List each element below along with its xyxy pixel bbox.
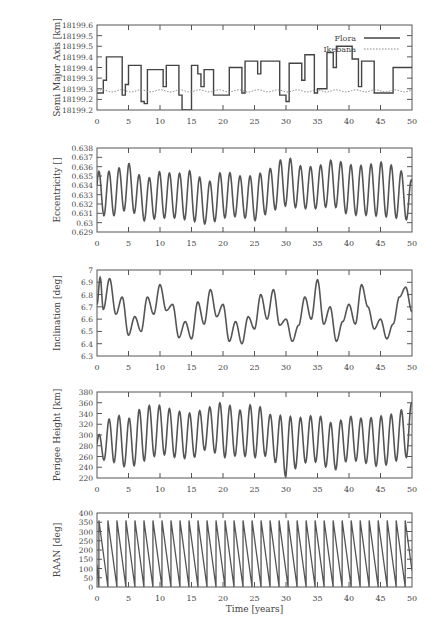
x-tick-label: 40 — [344, 594, 354, 603]
y-axis-label: RAAN [deg] — [52, 523, 62, 577]
x-tick-label: 5 — [126, 239, 131, 248]
x-tick-label: 35 — [312, 485, 322, 494]
x-tick-label: 40 — [344, 239, 354, 248]
x-tick-label: 20 — [218, 594, 228, 603]
perigee-height-line — [97, 403, 412, 476]
x-tick-label: 10 — [155, 594, 165, 603]
eccentricity-panel: 051015202530354045500.6380.6370.6360.635… — [52, 144, 417, 248]
x-tick-label: 5 — [126, 117, 131, 126]
y-tick-label: 6.6 — [81, 315, 93, 324]
y-tick-label: 18199.5 — [62, 42, 93, 51]
y-tick-label: 6.7 — [81, 303, 93, 312]
raan-line — [97, 520, 412, 587]
y-tick-label: 250 — [79, 537, 94, 546]
x-tick-label: 50 — [407, 594, 417, 603]
x-tick-label: 20 — [218, 485, 228, 494]
y-tick-label: 150 — [79, 555, 94, 564]
x-tick-label: 0 — [94, 239, 99, 248]
x-axis-label: Time [years] — [226, 604, 283, 614]
inclination-panel: 0510152025303540455076.96.86.76.66.56.46… — [52, 266, 417, 372]
x-tick-label: 5 — [126, 485, 131, 494]
x-tick-label: 25 — [249, 117, 259, 126]
x-tick-label: 25 — [249, 239, 259, 248]
figure: 0510152025303540455018199.618199.518199.… — [0, 0, 433, 633]
y-tick-label: 18199.4 — [62, 53, 93, 62]
raan-panel: 0510152025303540455040035030025020015010… — [52, 509, 417, 614]
y-tick-label: 380 — [79, 388, 94, 397]
x-tick-label: 5 — [126, 594, 131, 603]
y-tick-label: 0 — [88, 583, 93, 592]
y-tick-label: 320 — [79, 420, 94, 429]
legend: FloraIkebana — [323, 34, 400, 54]
y-tick-label: 18199.5 — [62, 32, 93, 41]
y-axis-label: Perigee Height [km] — [52, 389, 62, 482]
x-tick-label: 40 — [344, 485, 354, 494]
y-tick-label: 0.629 — [72, 228, 94, 237]
inclination-line — [97, 277, 412, 343]
x-tick-label: 15 — [186, 485, 196, 494]
x-tick-label: 10 — [155, 239, 165, 248]
x-tick-label: 10 — [155, 363, 165, 372]
x-tick-label: 50 — [407, 363, 417, 372]
x-tick-label: 35 — [312, 239, 322, 248]
y-tick-label: 7 — [88, 266, 93, 275]
eccentricity-line — [97, 159, 412, 224]
y-tick-label: 0.63 — [76, 219, 93, 228]
x-tick-label: 20 — [218, 117, 228, 126]
x-tick-label: 30 — [281, 117, 291, 126]
flora-line — [97, 46, 412, 110]
y-tick-label: 200 — [79, 546, 94, 555]
y-tick-label: 18199.6 — [62, 21, 93, 30]
legend-label: Ikebana — [323, 45, 356, 54]
ikebana-line — [97, 90, 411, 92]
y-tick-label: 0.633 — [72, 191, 94, 200]
x-tick-label: 15 — [186, 363, 196, 372]
x-tick-label: 20 — [218, 239, 228, 248]
y-tick-label: 6.9 — [81, 278, 93, 287]
y-tick-label: 50 — [83, 574, 93, 583]
y-tick-label: 0.636 — [72, 163, 94, 172]
x-tick-label: 20 — [218, 363, 228, 372]
y-tick-label: 0.638 — [72, 144, 94, 153]
x-tick-label: 25 — [249, 363, 259, 372]
legend-label: Flora — [334, 34, 356, 43]
y-tick-label: 0.631 — [72, 209, 93, 218]
y-tick-label: 18199.4 — [62, 64, 93, 73]
y-tick-label: 300 — [79, 431, 94, 440]
x-tick-label: 0 — [94, 485, 99, 494]
y-tick-label: 400 — [79, 509, 94, 518]
y-tick-label: 18199.2 — [62, 106, 93, 115]
x-tick-label: 30 — [281, 485, 291, 494]
x-tick-label: 45 — [375, 117, 385, 126]
x-tick-label: 50 — [407, 485, 417, 494]
y-tick-label: 0.635 — [72, 172, 94, 181]
y-tick-label: 220 — [79, 474, 94, 483]
x-tick-label: 0 — [94, 594, 99, 603]
y-tick-label: 340 — [79, 410, 94, 419]
x-tick-label: 10 — [155, 485, 165, 494]
plot-frame — [97, 392, 412, 478]
x-tick-label: 35 — [312, 117, 322, 126]
x-tick-label: 15 — [186, 239, 196, 248]
x-tick-label: 30 — [281, 594, 291, 603]
x-tick-label: 30 — [281, 239, 291, 248]
x-tick-label: 40 — [344, 363, 354, 372]
y-tick-label: 350 — [79, 518, 94, 527]
y-tick-label: 300 — [79, 528, 94, 537]
y-tick-label: 6.3 — [81, 352, 93, 361]
x-tick-label: 45 — [375, 594, 385, 603]
x-tick-label: 50 — [407, 117, 417, 126]
y-tick-label: 0.634 — [72, 181, 94, 190]
y-tick-label: 0.637 — [72, 153, 94, 162]
x-tick-label: 40 — [344, 117, 354, 126]
x-tick-label: 0 — [94, 363, 99, 372]
x-tick-label: 45 — [375, 485, 385, 494]
x-tick-label: 10 — [155, 117, 165, 126]
y-tick-label: 6.4 — [81, 340, 93, 349]
y-axis-label: Inclination [deg] — [52, 275, 62, 351]
y-tick-label: 18199.3 — [62, 74, 93, 83]
x-tick-label: 45 — [375, 239, 385, 248]
y-tick-label: 6.5 — [81, 327, 93, 336]
y-tick-label: 280 — [79, 442, 94, 451]
y-axis-label: Semi Major Axis [km] — [52, 18, 62, 117]
